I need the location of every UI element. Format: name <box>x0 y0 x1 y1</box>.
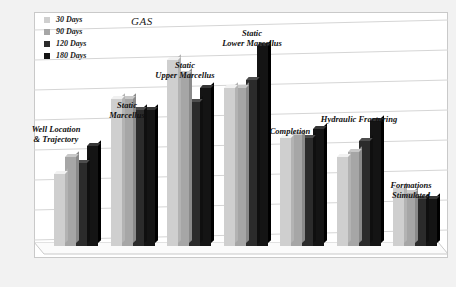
bar-side <box>348 152 351 243</box>
bar-top <box>246 77 260 80</box>
legend-item-90-days[interactable]: 90 Days <box>44 26 86 37</box>
bar-side <box>200 96 203 243</box>
legend-item-120-days[interactable]: 120 Days <box>44 38 86 49</box>
bar-group <box>111 24 155 246</box>
bar-side <box>76 152 79 243</box>
bar-side <box>257 74 260 243</box>
bar[interactable] <box>111 99 122 246</box>
category-label-hydraulic-fracturing: Hydraulic Fracturing <box>306 114 412 124</box>
bar-side <box>268 41 271 243</box>
legend-swatch-icon <box>44 41 50 47</box>
bar-side <box>189 68 192 243</box>
legend-item-180-days[interactable]: 180 Days <box>44 50 86 61</box>
legend-swatch-icon <box>44 17 50 23</box>
gas-bar-chart: Well Location & Trajectory Static Marcel… <box>0 0 456 287</box>
category-label-completion: Completion <box>252 126 328 136</box>
legend-item-label: 180 Days <box>56 50 86 61</box>
bar-side <box>211 82 214 243</box>
category-label-static-upper-marcellus: Static Upper Marcellus <box>138 60 232 80</box>
legend-swatch-icon <box>44 29 50 35</box>
bar-side <box>359 146 362 243</box>
legend-item-label: 30 Days <box>56 14 82 25</box>
bar-top <box>224 85 238 88</box>
bar-side <box>291 132 294 243</box>
bar-side <box>302 129 305 243</box>
bar-side <box>178 54 181 243</box>
bar-face <box>111 99 122 246</box>
bar-face <box>54 174 65 246</box>
bar-side <box>324 124 327 243</box>
bar-side <box>426 193 429 243</box>
bar-face <box>337 157 348 246</box>
bar-group <box>393 24 437 246</box>
bar-group <box>337 24 381 246</box>
bar-side <box>313 132 316 243</box>
bar[interactable] <box>280 138 291 246</box>
bar-face <box>280 138 291 246</box>
bar-face <box>167 60 178 246</box>
chart-title: GAS <box>131 15 153 27</box>
bar[interactable] <box>167 60 178 246</box>
bar[interactable] <box>224 88 235 246</box>
bar-side <box>235 82 238 243</box>
legend-item-label: 120 Days <box>56 38 86 49</box>
category-label-formations-stimulated: Formations Stimulated <box>370 180 452 200</box>
legend: 30 Days90 Days120 Days180 Days <box>44 14 86 61</box>
legend-item-30-days[interactable]: 30 Days <box>44 14 86 25</box>
bar-side <box>87 157 90 243</box>
category-label-static-lower-marcellus: Static Lower Marcellus <box>204 28 300 48</box>
bar-side <box>155 104 158 243</box>
bar[interactable] <box>337 157 348 246</box>
bar-top <box>111 96 125 99</box>
bar-group <box>167 24 211 246</box>
bar-face <box>224 88 235 246</box>
category-label-static-marcellus: Static Marcellus <box>88 100 166 120</box>
bar-side <box>98 140 101 243</box>
legend-item-label: 90 Days <box>56 26 82 37</box>
bar-side <box>65 168 68 243</box>
bar-side <box>246 82 249 243</box>
bar-top <box>359 138 373 141</box>
category-label-well-location: Well Location & Trajectory <box>10 124 102 144</box>
legend-swatch-icon <box>44 53 50 59</box>
bar-side <box>437 193 440 243</box>
bar[interactable] <box>54 174 65 246</box>
bar-top <box>337 154 351 157</box>
bar-side <box>144 104 147 243</box>
plot-area: Well Location & Trajectory Static Marcel… <box>34 12 448 264</box>
